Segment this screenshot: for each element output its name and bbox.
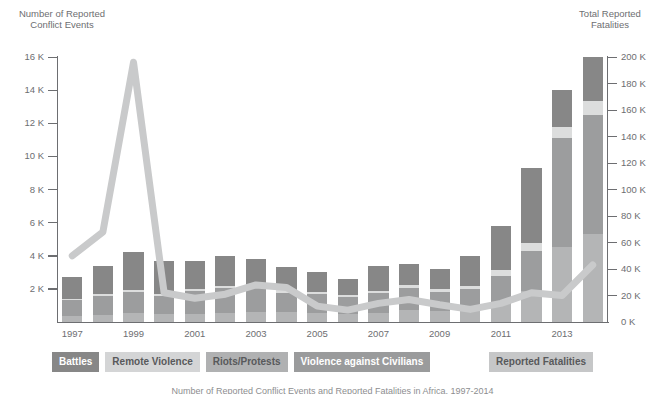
right-tick-mark bbox=[608, 295, 617, 296]
bar-2004[interactable] bbox=[276, 267, 296, 322]
bar-segment bbox=[491, 304, 511, 322]
legend-item-battles[interactable]: Battles bbox=[52, 352, 99, 372]
bar-segment bbox=[154, 261, 174, 295]
right-tick-mark bbox=[608, 163, 617, 164]
bar-segment bbox=[185, 261, 205, 290]
bar-segment bbox=[215, 256, 235, 286]
right-tick-mark bbox=[608, 57, 617, 58]
left-tick-label: 6 K bbox=[0, 217, 44, 228]
bar-2009[interactable] bbox=[430, 269, 450, 322]
bar-segment bbox=[62, 299, 82, 300]
bar-segment bbox=[460, 289, 480, 311]
bar-segment bbox=[460, 286, 480, 289]
left-tick-mark bbox=[48, 57, 57, 58]
bar-2006[interactable] bbox=[338, 279, 358, 322]
legend-item-reported-fatalities[interactable]: Reported Fatalities bbox=[489, 352, 593, 372]
bar-1999[interactable] bbox=[123, 252, 143, 322]
legend-item-riots-protests[interactable]: Riots/Protests bbox=[206, 352, 288, 372]
bar-2002[interactable] bbox=[215, 256, 235, 322]
chart-caption: Number of Reported Conflict Events and R… bbox=[0, 386, 665, 394]
x-tick-label: 2001 bbox=[175, 328, 215, 339]
left-tick-mark bbox=[48, 123, 57, 124]
bar-segment bbox=[246, 286, 266, 288]
bar-segment bbox=[276, 267, 296, 290]
bar-segment bbox=[62, 300, 82, 316]
legend-item-remote-violence[interactable]: Remote Violence bbox=[105, 352, 199, 372]
bar-segment bbox=[154, 314, 174, 322]
bar-2014[interactable] bbox=[583, 57, 603, 322]
bar-segment bbox=[338, 295, 358, 297]
left-tick-mark bbox=[48, 189, 57, 190]
right-tick-label: 120 K bbox=[621, 157, 646, 168]
left-tick-label: 4 K bbox=[0, 250, 44, 261]
bar-segment bbox=[154, 296, 174, 314]
left-tick-label: 14 K bbox=[0, 84, 44, 95]
right-tick-mark bbox=[608, 83, 617, 84]
right-tick-mark bbox=[608, 216, 617, 217]
bar-segment bbox=[521, 243, 541, 251]
bar-segment bbox=[276, 290, 296, 292]
bar-1997[interactable] bbox=[62, 277, 82, 322]
right-tick-label: 100 K bbox=[621, 184, 646, 195]
bar-1998[interactable] bbox=[93, 266, 113, 322]
right-tick-label: 200 K bbox=[621, 51, 646, 62]
right-tick-mark bbox=[608, 242, 617, 243]
bar-segment bbox=[185, 291, 205, 313]
x-tick-label: 2013 bbox=[542, 328, 582, 339]
bar-segment bbox=[62, 277, 82, 299]
bar-segment bbox=[246, 259, 266, 286]
bar-segment bbox=[521, 291, 541, 322]
bar-segment bbox=[368, 313, 388, 322]
right-tick-label: 160 K bbox=[621, 104, 646, 115]
bar-segment bbox=[491, 276, 511, 304]
left-axis-title: Number of Reported Conflict Events bbox=[6, 8, 118, 30]
bar-2008[interactable] bbox=[399, 264, 419, 322]
bar-segment bbox=[491, 226, 511, 270]
bar-2000[interactable] bbox=[154, 261, 174, 322]
bar-segment bbox=[583, 101, 603, 115]
x-tick-label: 2007 bbox=[358, 328, 398, 339]
bar-segment bbox=[430, 289, 450, 292]
bar-segment bbox=[307, 272, 327, 292]
bar-segment bbox=[491, 270, 511, 275]
bar-segment bbox=[185, 314, 205, 322]
bar-segment bbox=[123, 290, 143, 292]
bar-segment bbox=[246, 312, 266, 322]
bar-segment bbox=[552, 90, 572, 126]
bar-2013[interactable] bbox=[552, 90, 572, 322]
bar-segment bbox=[552, 247, 572, 322]
bar-segment bbox=[521, 168, 541, 243]
bar-segment bbox=[460, 256, 480, 286]
bar-2005[interactable] bbox=[307, 272, 327, 322]
bar-segment bbox=[399, 264, 419, 285]
x-tick-label: 2011 bbox=[481, 328, 521, 339]
bar-2001[interactable] bbox=[185, 261, 205, 322]
legend: BattlesRemote ViolenceRiots/ProtestsViol… bbox=[0, 352, 665, 378]
bar-2007[interactable] bbox=[368, 266, 388, 322]
bar-segment bbox=[583, 57, 603, 101]
left-tick-mark bbox=[48, 156, 57, 157]
bar-segment bbox=[276, 293, 296, 313]
bar-2012[interactable] bbox=[521, 168, 541, 322]
right-tick-label: 60 K bbox=[621, 237, 641, 248]
bar-2011[interactable] bbox=[491, 226, 511, 322]
x-tick-label: 2003 bbox=[236, 328, 276, 339]
bar-segment bbox=[552, 127, 572, 139]
x-tick-label: 1999 bbox=[114, 328, 154, 339]
right-tick-label: 0 K bbox=[621, 316, 635, 327]
right-tick-label: 40 K bbox=[621, 263, 641, 274]
bar-segment bbox=[215, 288, 235, 313]
right-tick-mark bbox=[608, 189, 617, 190]
bar-2010[interactable] bbox=[460, 256, 480, 322]
legend-item-violence-against-civilians[interactable]: Violence against Civilians bbox=[294, 352, 431, 372]
bar-segment bbox=[246, 288, 266, 312]
right-tick-label: 140 K bbox=[621, 131, 646, 142]
bar-segment bbox=[276, 312, 296, 322]
bar-segment bbox=[368, 293, 388, 313]
bar-segment bbox=[215, 313, 235, 322]
bar-segment bbox=[185, 289, 205, 291]
bar-2003[interactable] bbox=[246, 259, 266, 322]
x-tick-label: 1997 bbox=[52, 328, 92, 339]
right-tick-label: 20 K bbox=[621, 290, 641, 301]
bar-segment bbox=[583, 234, 603, 322]
